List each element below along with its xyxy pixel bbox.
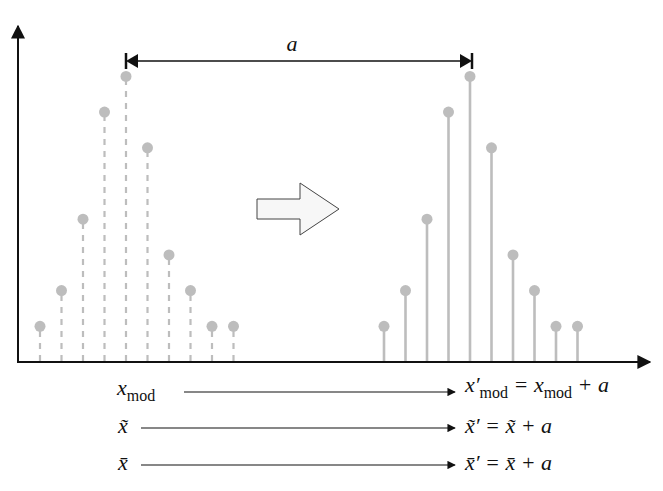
shifted-point — [400, 285, 411, 296]
eq-mode-rhs: x′ — [464, 372, 481, 397]
eq-median-rhs: x̃′ = x̃ + a — [464, 413, 552, 438]
original-point — [142, 142, 153, 153]
shifted-point — [379, 321, 390, 332]
svg-text:xmod: xmod — [116, 375, 155, 404]
original-point — [228, 321, 239, 332]
original-point — [207, 321, 218, 332]
shift-dimension: a — [126, 31, 472, 69]
shift-diagram: a xmod x′mod = xmod + a x̃ x̃′ = x̃ + a … — [0, 0, 663, 491]
shifted-stems — [379, 71, 584, 361]
eq-mean-rhs: x̄′ = x̄ + a — [464, 450, 552, 475]
shifted-point — [551, 321, 562, 332]
equation-mode: xmod x′mod = xmod + a — [116, 372, 609, 404]
original-point — [185, 285, 196, 296]
equation-median: x̃ x̃′ = x̃ + a — [117, 413, 552, 438]
shifted-point — [486, 142, 497, 153]
original-point — [121, 71, 132, 82]
shifted-point — [422, 214, 433, 225]
original-point — [164, 249, 175, 260]
equation-mean: x̄ x̄′ = x̄ + a — [117, 450, 552, 475]
shifted-point — [572, 321, 583, 332]
block-arrow-icon — [257, 183, 339, 235]
original-point — [35, 321, 46, 332]
svg-text:x′mod = xmod + a: x′mod = xmod + a — [464, 372, 609, 401]
eq-median-lhs: x̃ — [117, 413, 128, 438]
original-point — [56, 285, 67, 296]
shifted-point — [529, 285, 540, 296]
shifted-point — [465, 71, 476, 82]
original-point — [78, 214, 89, 225]
shifted-point — [443, 107, 454, 118]
original-stems — [35, 71, 240, 361]
original-point — [99, 107, 110, 118]
shift-arrowhead-right — [460, 54, 472, 68]
shifted-point — [508, 249, 519, 260]
eq-mean-lhs: x̄ — [117, 450, 128, 475]
shift-arrowhead-left — [126, 54, 138, 68]
eq-mode-lhs: x — [116, 375, 127, 400]
shift-label: a — [287, 31, 298, 56]
